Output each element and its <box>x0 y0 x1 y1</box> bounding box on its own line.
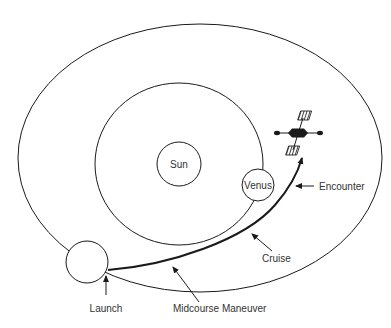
venus-mission-diagram: Sun Venus Launch Midcourse Maneuver Crui… <box>0 0 391 328</box>
cruise-arrow <box>252 234 272 251</box>
earth <box>66 241 108 283</box>
sun: Sun <box>157 142 201 186</box>
cruise-label: Cruise <box>262 253 291 264</box>
midcourse-label: Midcourse Maneuver <box>173 303 267 314</box>
spacecraft-icon <box>274 111 323 155</box>
sun-label: Sun <box>170 159 188 170</box>
launch-label: Launch <box>90 303 123 314</box>
encounter-label: Encounter <box>319 181 365 192</box>
venus: Venus <box>242 169 274 201</box>
venus-label: Venus <box>244 180 272 191</box>
midcourse-arrow <box>173 267 199 302</box>
